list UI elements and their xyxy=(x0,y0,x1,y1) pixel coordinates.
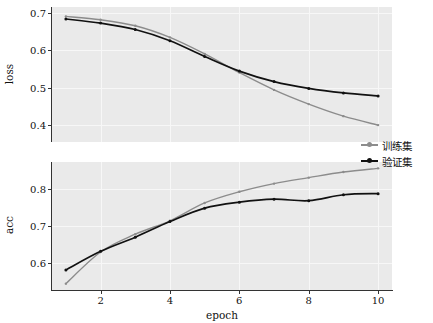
x-tick-label: 6 xyxy=(236,295,242,306)
x-tick-label: 2 xyxy=(97,295,103,306)
x-axis-label: epoch xyxy=(202,309,242,321)
series-marker xyxy=(342,193,345,196)
y-tick-label: 0.6 xyxy=(4,258,46,269)
x-tick xyxy=(170,291,171,294)
x-tick xyxy=(239,291,240,294)
y-tick-label: 0.8 xyxy=(4,183,46,194)
y-axis-spine xyxy=(51,162,52,290)
series-line-val xyxy=(66,194,378,270)
series-marker xyxy=(99,250,102,253)
x-tick-label: 10 xyxy=(372,295,385,306)
series-marker xyxy=(203,207,206,210)
series-marker xyxy=(307,199,310,202)
series-marker xyxy=(203,202,205,204)
series-marker xyxy=(377,192,380,195)
series-marker xyxy=(134,236,137,239)
series-marker xyxy=(273,198,276,201)
x-tick xyxy=(378,291,379,294)
legend-item-val[interactable]: 验证集 xyxy=(361,153,431,169)
x-tick xyxy=(309,291,310,294)
series-marker xyxy=(64,268,67,271)
x-tick-label: 4 xyxy=(167,295,173,306)
legend-marker-val-icon xyxy=(361,156,378,166)
legend-item-train[interactable]: 训练集 xyxy=(361,137,431,153)
legend-marker-train-icon xyxy=(361,140,378,150)
series-marker xyxy=(238,201,241,204)
y-tick xyxy=(48,189,51,190)
legend-label-val: 验证集 xyxy=(382,154,412,169)
legend: 训练集 验证集 xyxy=(361,137,431,169)
x-tick xyxy=(101,291,102,294)
y-tick xyxy=(48,263,51,264)
series-marker xyxy=(308,176,310,178)
series-marker xyxy=(65,282,67,284)
series-marker xyxy=(273,182,275,184)
series-marker xyxy=(168,220,171,223)
acc-y-axis-label: acc xyxy=(3,205,15,245)
figure-canvas: 0.40.50.60.7loss 0.60.70.8246810epochacc… xyxy=(0,0,433,323)
legend-label-train: 训练集 xyxy=(382,138,412,153)
x-tick-label: 8 xyxy=(306,295,312,306)
series-marker xyxy=(238,191,240,193)
series-marker xyxy=(134,233,136,235)
x-axis-spine xyxy=(51,290,393,291)
series-marker xyxy=(342,171,344,173)
series-line-train xyxy=(66,168,378,283)
y-tick xyxy=(48,226,51,227)
